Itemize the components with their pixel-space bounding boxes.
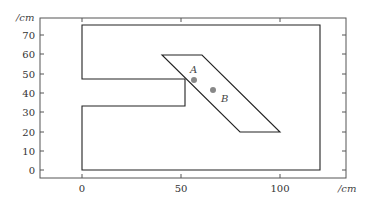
- outer-region-outline: [82, 25, 320, 170]
- x-tick-label: 50: [175, 183, 188, 194]
- y-tick-label: 60: [22, 49, 35, 60]
- x-tick-label: 100: [270, 183, 289, 194]
- y-tick-label: 70: [22, 30, 35, 41]
- x-unit-label: /cm: [337, 183, 356, 194]
- y-axis-ticks-right: [342, 35, 346, 170]
- diagram-canvas: 0 10 20 30 40 50 60 70 /cm 0 50 100 /cm …: [0, 0, 380, 213]
- y-tick-label: 0: [29, 165, 35, 176]
- y-tick-label: 10: [22, 146, 35, 157]
- x-tick-label: 0: [79, 183, 85, 194]
- y-tick-label: 40: [22, 88, 35, 99]
- y-tick-label: 50: [22, 69, 35, 80]
- y-unit-label: /cm: [15, 12, 34, 23]
- y-tick-label: 20: [22, 127, 35, 138]
- y-tick-label: 30: [22, 107, 35, 118]
- point-a-label: A: [189, 64, 197, 75]
- point-a-marker: [191, 77, 197, 83]
- point-b-label: B: [220, 93, 228, 104]
- y-axis-ticks-left: [40, 35, 44, 170]
- plot-frame: [40, 18, 346, 178]
- point-b-marker: [210, 87, 216, 93]
- x-axis-ticks: [82, 18, 280, 178]
